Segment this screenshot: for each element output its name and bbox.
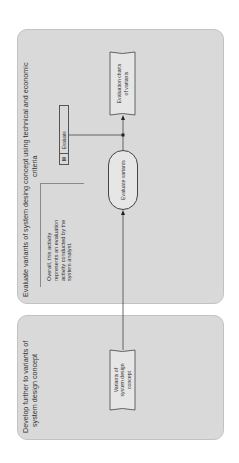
node-text: system design — [119, 363, 125, 396]
mechanism-label: Evaluate — [60, 106, 68, 153]
evaluate-variants-activity[interactable]: Evaluate variants — [108, 150, 138, 210]
node-text: concept — [126, 363, 132, 396]
mechanism-evaluate-box[interactable]: M Evaluate — [59, 105, 69, 165]
mechanism-tag: M — [60, 153, 68, 164]
variants-of-system-design-concept-doc[interactable]: Variants of system design concept — [110, 352, 135, 408]
evaluation-charts-doc[interactable]: Evaluation charts of variants — [110, 54, 135, 113]
diagram-canvas: Develop further to variants of system de… — [0, 0, 239, 463]
node-text: Evaluate variants — [120, 160, 126, 200]
node-text: Evaluation charts — [116, 64, 122, 104]
node-text: of variants — [123, 64, 129, 104]
